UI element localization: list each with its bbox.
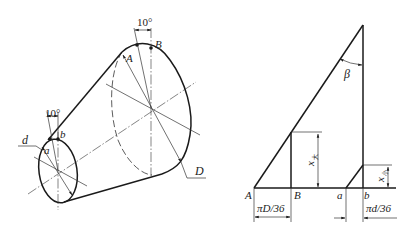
point-a-dot xyxy=(48,137,52,141)
label-b: b xyxy=(60,128,66,140)
small-cross-centerline xyxy=(34,157,87,186)
label-x-small: x 小 xyxy=(374,170,389,183)
point-B-dot xyxy=(149,46,153,50)
label-x-large: x 大 xyxy=(304,154,319,167)
diagram-canvas: 10° 10° d a b A B D xyxy=(0,0,409,236)
svg-text:x: x xyxy=(304,161,316,167)
lower-generator-line xyxy=(64,174,162,202)
point-A-dot xyxy=(135,43,139,47)
cone-axis xyxy=(28,82,196,194)
cone-development-diagram: 10° 10° d a b A B D xyxy=(0,0,409,236)
svg-text:大: 大 xyxy=(311,154,319,160)
label-pid-36: πd/36 xyxy=(366,202,392,214)
label-D: D xyxy=(194,164,204,178)
label-a: a xyxy=(44,144,50,156)
label-dev-b: b xyxy=(364,189,370,201)
large-angle-label: 10° xyxy=(137,16,152,28)
large-end-hidden-arc xyxy=(112,52,152,175)
label-dev-B: B xyxy=(294,189,301,201)
development-triangle-view: β A B a b x 大 x 小 πD/36 πd/36 xyxy=(244,25,397,222)
label-d: d xyxy=(22,133,29,147)
beta-angle-arc xyxy=(340,59,362,65)
label-A: A xyxy=(125,52,133,64)
label-dev-a: a xyxy=(337,189,343,201)
label-piD-36: πD/36 xyxy=(257,202,285,214)
D-diameter-line xyxy=(123,55,181,162)
svg-text:小: 小 xyxy=(381,170,389,176)
small-angle-label: 10° xyxy=(45,107,60,119)
truncated-cone-view: 10° 10° d a b A B D xyxy=(18,16,206,210)
label-beta: β xyxy=(343,67,350,81)
large-10deg-ref-line xyxy=(134,28,151,108)
upper-generator-line xyxy=(48,52,122,140)
label-B: B xyxy=(155,38,162,50)
svg-text:x: x xyxy=(374,177,386,183)
label-dev-A: A xyxy=(244,189,252,201)
small-hypotenuse xyxy=(346,165,363,188)
